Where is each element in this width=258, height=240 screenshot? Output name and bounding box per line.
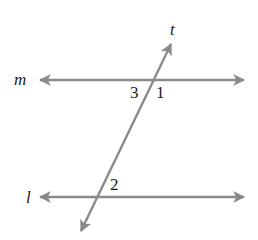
angle-1-label: 1 bbox=[156, 83, 165, 102]
line-t-label: t bbox=[170, 20, 176, 39]
diagram-canvas: m l t 3 1 2 bbox=[0, 0, 258, 240]
line-m-label: m bbox=[14, 70, 26, 89]
line-t-segment bbox=[81, 44, 171, 231]
angle-2-label: 2 bbox=[110, 175, 119, 194]
geometry-diagram: m l t 3 1 2 bbox=[0, 0, 258, 240]
line-l-label: l bbox=[26, 188, 31, 207]
line-t bbox=[81, 44, 171, 231]
angle-3-label: 3 bbox=[130, 83, 139, 102]
